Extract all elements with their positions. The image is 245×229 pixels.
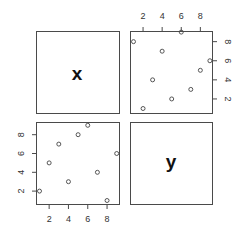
data-point	[141, 107, 145, 111]
data-point	[76, 133, 80, 137]
top-axis-tick-label: 6	[179, 11, 184, 21]
data-point	[57, 142, 61, 146]
data-point	[208, 59, 212, 63]
data-point	[198, 68, 202, 72]
bottom-axis-tick-label: 6	[85, 214, 90, 224]
top-axis-tick-label: 4	[160, 11, 165, 21]
scatter-points-y-vs-x	[132, 30, 212, 110]
data-point	[95, 170, 99, 174]
right-axis-tick-label: 2	[223, 96, 233, 101]
left-axis-tick-label: 4	[16, 170, 26, 175]
data-point	[189, 87, 193, 91]
top-axis-tick-label: 2	[141, 11, 146, 21]
bottom-axis-tick-label: 8	[105, 214, 110, 224]
data-point	[132, 40, 136, 44]
left-axis-tick-label: 2	[16, 189, 26, 194]
scatter-points-x-vs-y	[38, 123, 119, 202]
right-axis-tick-label: 8	[223, 39, 233, 44]
bottom-axis-tick-label: 4	[66, 214, 71, 224]
panel-bottom-left	[37, 123, 120, 205]
right-axis-tick-label: 6	[223, 58, 233, 63]
data-point	[38, 189, 42, 193]
data-point	[151, 78, 155, 82]
data-point	[47, 161, 51, 165]
data-point	[160, 49, 164, 53]
bottom-axis-tick-label: 2	[47, 214, 52, 224]
variable-label-x: x	[72, 63, 83, 84]
data-point	[170, 97, 174, 101]
data-point	[66, 180, 70, 184]
variable-label-y: y	[166, 151, 177, 172]
data-point	[105, 199, 109, 203]
right-axis-tick-label: 4	[223, 77, 233, 82]
top-axis-tick-label: 8	[198, 11, 203, 21]
left-axis-tick-label: 8	[16, 132, 26, 137]
data-point	[115, 152, 119, 156]
axes: 2222444466668888	[16, 11, 233, 224]
left-axis-tick-label: 6	[16, 151, 26, 156]
scatterplot-matrix: x y 2222444466668888	[0, 0, 245, 229]
data-point	[86, 123, 90, 127]
